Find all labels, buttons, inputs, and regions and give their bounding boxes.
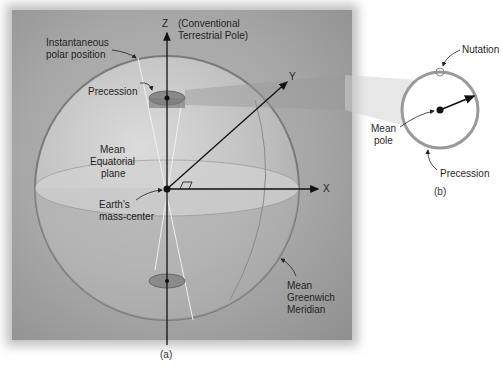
inst-pole-label-1: Instantaneous — [46, 37, 109, 48]
x-axis-label: X — [323, 183, 330, 194]
mass-center-dot — [164, 186, 171, 193]
mep-label-3: plane — [101, 168, 126, 179]
z-axis-label: Z — [162, 18, 168, 29]
ctp-label-2: Terrestrial Pole) — [178, 30, 248, 41]
mean-pole-label-1: Mean — [371, 123, 396, 134]
mgm-label-3: Meridian — [287, 304, 325, 315]
precession-label-a: Precession — [88, 86, 137, 97]
emc-label-2: mass-center — [99, 211, 155, 222]
caption-a: (a) — [160, 349, 172, 360]
y-axis-label: Y — [289, 71, 296, 82]
mgm-label-2: Greenwich — [287, 292, 335, 303]
mep-label-2: Equatorial — [90, 156, 135, 167]
inst-pole-label-2: polar position — [46, 49, 105, 60]
precession-label-b: Precession — [440, 168, 489, 179]
caption-b: (b) — [434, 186, 446, 197]
mep-label-1: Mean — [100, 144, 125, 155]
mean-pole-label-2: pole — [374, 135, 393, 146]
diagram-canvas: Z (Conventional Terrestrial Pole) Instan… — [0, 0, 503, 372]
ctp-label-1: (Conventional — [178, 18, 240, 29]
mgm-label-1: Mean — [287, 280, 312, 291]
emc-label-1: Earth's — [99, 199, 130, 210]
nutation-label: Nutation — [462, 44, 499, 55]
